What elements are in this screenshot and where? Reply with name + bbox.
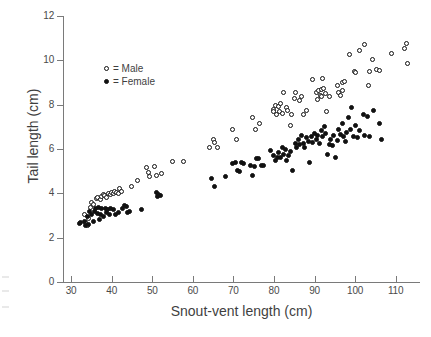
legend-item-male: = Male bbox=[104, 62, 155, 75]
data-point-female bbox=[317, 141, 322, 146]
data-point-female bbox=[252, 164, 257, 169]
data-point-female bbox=[322, 124, 327, 129]
data-point-female bbox=[307, 160, 312, 165]
y-tick-label-12: 12 bbox=[36, 11, 54, 21]
data-point-male bbox=[327, 94, 332, 99]
data-point-female bbox=[209, 176, 214, 181]
data-point-male bbox=[170, 159, 175, 164]
scatter-plot-figure: 024681012 30405060708090100110 Tail leng… bbox=[0, 0, 431, 337]
data-point-male bbox=[367, 69, 372, 74]
data-point-female bbox=[340, 121, 345, 126]
data-point-female bbox=[139, 207, 144, 212]
data-point-male bbox=[324, 109, 329, 114]
data-point-female bbox=[101, 214, 106, 219]
data-point-female bbox=[256, 156, 261, 161]
data-point-male bbox=[280, 111, 285, 116]
data-point-female bbox=[336, 127, 341, 132]
data-point-female bbox=[365, 114, 370, 119]
data-point-female bbox=[333, 155, 338, 160]
data-point-male bbox=[377, 68, 382, 73]
data-point-female bbox=[288, 149, 293, 154]
data-point-male bbox=[342, 79, 347, 84]
data-point-female bbox=[91, 219, 96, 224]
data-point-female bbox=[335, 138, 340, 143]
data-point-male bbox=[299, 94, 304, 99]
data-point-male bbox=[230, 127, 235, 132]
data-point-female bbox=[349, 105, 354, 110]
data-point-female bbox=[330, 143, 335, 148]
data-point-female bbox=[343, 139, 348, 144]
x-tick-label-60: 60 bbox=[178, 285, 208, 296]
data-point-male bbox=[357, 48, 362, 53]
data-point-female bbox=[107, 212, 112, 217]
x-tick-label-100: 100 bbox=[340, 285, 370, 296]
data-point-female bbox=[379, 137, 384, 142]
legend: = Male = Female bbox=[104, 62, 155, 88]
x-tick-label-110: 110 bbox=[381, 285, 411, 296]
y-tick-label-0: 0 bbox=[36, 277, 54, 287]
data-point-female bbox=[325, 152, 330, 157]
data-point-female bbox=[250, 173, 255, 178]
data-point-male bbox=[159, 171, 164, 176]
data-point-female bbox=[323, 131, 328, 136]
data-point-male bbox=[301, 112, 306, 117]
data-point-male bbox=[253, 127, 258, 132]
data-point-male bbox=[404, 41, 409, 46]
data-point-male bbox=[347, 52, 352, 57]
data-point-female bbox=[127, 209, 132, 214]
data-point-female bbox=[223, 174, 228, 179]
data-point-male bbox=[366, 83, 371, 88]
legend-label-male: = Male bbox=[113, 62, 143, 75]
data-point-female bbox=[346, 115, 351, 120]
data-point-female bbox=[348, 127, 353, 132]
data-point-male bbox=[147, 174, 152, 179]
data-point-female bbox=[268, 148, 273, 153]
data-point-female bbox=[241, 161, 246, 166]
data-point-female bbox=[237, 169, 242, 174]
data-point-male bbox=[250, 115, 255, 120]
data-point-male bbox=[135, 178, 140, 183]
data-point-male bbox=[129, 184, 134, 189]
y-tick-0 bbox=[57, 282, 63, 283]
data-point-male bbox=[340, 88, 345, 93]
legend-label-female: = Female bbox=[113, 75, 155, 88]
data-point-male bbox=[321, 86, 326, 91]
data-point-male bbox=[402, 46, 407, 51]
x-tick-label-50: 50 bbox=[137, 285, 167, 296]
x-tick-label-90: 90 bbox=[300, 285, 330, 296]
data-point-male bbox=[207, 145, 212, 150]
data-point-male bbox=[353, 70, 358, 75]
data-point-female bbox=[357, 128, 362, 133]
data-point-female bbox=[261, 163, 266, 168]
data-point-male bbox=[389, 51, 394, 56]
data-point-male bbox=[281, 90, 286, 95]
data-point-male bbox=[212, 140, 217, 145]
data-point-male bbox=[293, 90, 298, 95]
x-tick-label-70: 70 bbox=[218, 285, 248, 296]
data-point-female bbox=[158, 193, 163, 198]
x-tick-label-30: 30 bbox=[56, 285, 86, 296]
data-point-male bbox=[234, 137, 239, 142]
data-point-female bbox=[233, 160, 238, 165]
page-margin-artifacts bbox=[2, 276, 12, 318]
data-point-female bbox=[212, 184, 217, 189]
y-tick-label-2: 2 bbox=[36, 233, 54, 243]
data-point-male bbox=[154, 173, 159, 178]
data-point-female bbox=[377, 121, 382, 126]
data-point-male bbox=[181, 159, 186, 164]
data-point-male bbox=[304, 108, 309, 113]
data-point-male bbox=[405, 61, 410, 66]
data-point-male bbox=[338, 93, 343, 98]
x-tick-label-40: 40 bbox=[97, 285, 127, 296]
x-tick-label-80: 80 bbox=[259, 285, 289, 296]
open-circle-icon bbox=[104, 66, 109, 71]
data-point-male bbox=[257, 121, 262, 126]
data-point-male bbox=[289, 112, 294, 117]
data-point-male bbox=[288, 123, 293, 128]
data-point-male bbox=[292, 96, 297, 101]
data-point-male bbox=[278, 101, 283, 106]
data-point-male bbox=[335, 83, 340, 88]
plot-area bbox=[63, 16, 420, 282]
data-point-female bbox=[286, 153, 291, 158]
data-point-male bbox=[310, 77, 315, 82]
